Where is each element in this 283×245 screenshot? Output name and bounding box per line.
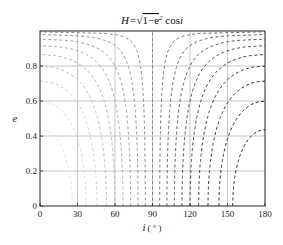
y-axis-label: e bbox=[13, 112, 18, 124]
contour-line bbox=[40, 39, 131, 206]
contour-line bbox=[40, 130, 72, 206]
x-tick-label: 90 bbox=[148, 209, 158, 219]
contour-line bbox=[40, 81, 97, 206]
contour-line bbox=[219, 101, 265, 206]
y-tick-label: 0.4 bbox=[26, 131, 38, 141]
contour-line bbox=[182, 46, 265, 206]
x-tick-label: 120 bbox=[183, 209, 197, 219]
contour-line bbox=[233, 130, 265, 206]
x-tick-label: 30 bbox=[73, 209, 83, 219]
contour-line bbox=[167, 35, 265, 206]
chart-title: H=√1−e2 cosi bbox=[120, 14, 183, 26]
contour-line bbox=[40, 35, 138, 206]
contour-line bbox=[40, 101, 86, 206]
y-tick-label: 0 bbox=[33, 201, 38, 211]
x-tick-label: 0 bbox=[38, 209, 43, 219]
x-axis-ticks: 0306090120150180 bbox=[38, 203, 273, 219]
contour-line bbox=[40, 32, 145, 206]
contour-line bbox=[174, 39, 265, 206]
contour-line bbox=[208, 81, 265, 206]
y-tick-label: 0.8 bbox=[26, 61, 38, 71]
x-tick-label: 150 bbox=[221, 209, 235, 219]
contour-line bbox=[160, 32, 265, 206]
y-tick-label: 0.2 bbox=[26, 166, 37, 176]
y-tick-label: 0.6 bbox=[26, 96, 38, 106]
contour-chart: H=√1−e2 cosi 0306090120150180 00.20.40.6… bbox=[0, 0, 283, 245]
x-tick-label: 60 bbox=[111, 209, 121, 219]
x-tick-label: 180 bbox=[258, 209, 272, 219]
contour-line bbox=[40, 46, 123, 206]
x-axis-label: i( ° ) bbox=[142, 221, 161, 233]
